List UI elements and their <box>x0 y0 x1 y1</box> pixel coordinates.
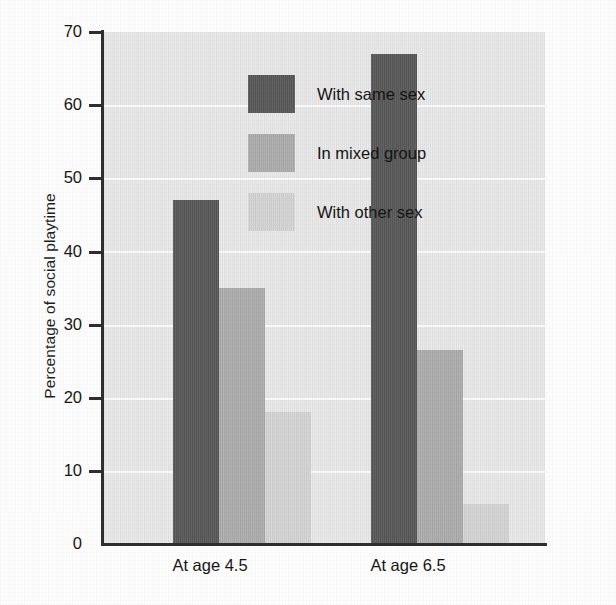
swatch-grain <box>248 75 295 113</box>
bar-age6.5-with-other-sex <box>463 504 509 544</box>
gridline-20 <box>103 398 545 400</box>
legend-item-in-mixed-group: In mixed group <box>248 131 426 175</box>
swatch-grain <box>248 193 295 231</box>
y-tick-label-30: 30 <box>22 316 82 333</box>
bar-grain <box>173 200 219 544</box>
bar-grain <box>417 350 463 544</box>
y-tick-20 <box>89 397 103 400</box>
bar-age4.5-in-mixed-group <box>219 288 265 544</box>
y-tick-50 <box>89 177 103 180</box>
bar-grain <box>219 288 265 544</box>
legend-label-with-other-sex: With other sex <box>317 203 422 222</box>
legend-swatch-with-other-sex <box>248 193 295 231</box>
gridline-30 <box>103 325 545 327</box>
y-tick-60 <box>89 104 103 107</box>
bar-grain <box>265 412 311 544</box>
bar-age4.5-with-other-sex <box>265 412 311 544</box>
legend-swatch-with-same-sex <box>248 75 295 113</box>
legend: With same sex In mixed group With other … <box>248 72 426 249</box>
legend-swatch-in-mixed-group <box>248 134 295 172</box>
y-axis-line <box>101 30 104 546</box>
gridline-10 <box>103 471 545 473</box>
y-tick-label-50: 50 <box>22 169 82 186</box>
x-tick-label-at-age-4-5: At age 4.5 <box>140 556 280 575</box>
bar-age6.5-in-mixed-group <box>417 350 463 544</box>
legend-item-with-same-sex: With same sex <box>248 72 426 116</box>
y-tick-label-20: 20 <box>22 389 82 406</box>
swatch-grain <box>248 134 295 172</box>
y-tick-label-0: 0 <box>22 535 82 552</box>
y-tick-40 <box>89 251 103 254</box>
x-axis-line <box>101 543 547 546</box>
legend-item-with-other-sex: With other sex <box>248 190 426 234</box>
y-tick-label-10: 10 <box>22 462 82 479</box>
y-tick-70 <box>89 31 103 34</box>
y-tick-label-40: 40 <box>22 243 82 260</box>
legend-label-in-mixed-group: In mixed group <box>317 144 426 163</box>
bar-chart-figure: Percentage of social playtime <box>0 0 616 605</box>
bar-grain <box>463 504 509 544</box>
x-tick-label-at-age-6-5: At age 6.5 <box>338 556 478 575</box>
gridline-40 <box>103 251 545 253</box>
legend-label-with-same-sex: With same sex <box>317 85 425 104</box>
y-tick-label-60: 60 <box>22 96 82 113</box>
bar-age4.5-with-same-sex <box>173 200 219 544</box>
plot-area: With same sex In mixed group With other … <box>103 32 545 544</box>
y-tick-label-70: 70 <box>22 23 82 40</box>
y-tick-30 <box>89 324 103 327</box>
y-tick-10 <box>89 470 103 473</box>
